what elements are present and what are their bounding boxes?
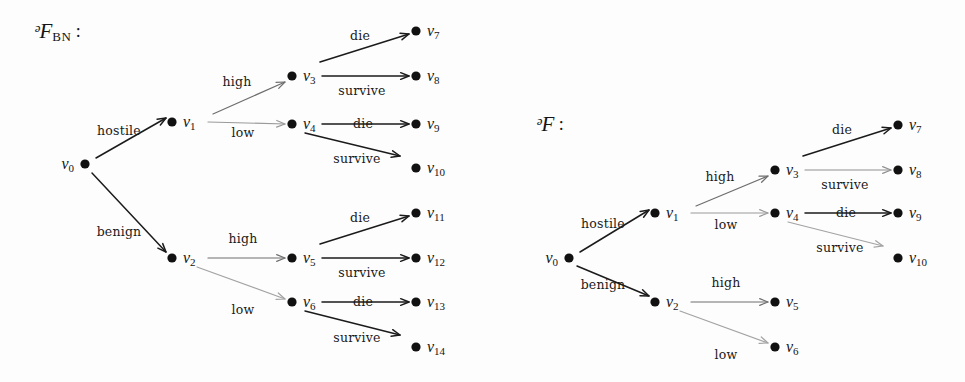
node-dot[interactable] (287, 297, 296, 306)
node-dot[interactable] (287, 253, 296, 262)
edge-label: low (232, 302, 255, 317)
node-panel-t-v8[interactable]: v8 (893, 161, 922, 180)
edge-label: die (836, 205, 856, 220)
node-dot[interactable] (411, 26, 420, 35)
node-dot[interactable] (411, 119, 420, 128)
edge-label: survive (338, 265, 385, 280)
node-label: v6 (303, 293, 316, 312)
node-panel-bn-v8[interactable]: v8 (411, 67, 440, 86)
edge-panel-bn-e-v3-v8: survive (322, 73, 409, 98)
decision-tree-figure: ᵊFBN :hostilebenignhighlowhighlowdiesurv… (0, 0, 965, 382)
edge-panel-bn-e-v0-v1: hostile (96, 118, 166, 158)
node-dot[interactable] (167, 253, 176, 262)
node-panel-t-v10[interactable]: v10 (893, 249, 927, 268)
node-panel-bn-v2[interactable]: v2 (167, 249, 195, 268)
edge-label: survive (821, 177, 868, 192)
edge-panel-bn-e-v6-v13: die (322, 294, 409, 309)
edge-label: die (353, 116, 373, 131)
node-panel-bn-v1[interactable]: v1 (167, 113, 195, 132)
node-panel-t-v2[interactable]: v2 (650, 293, 678, 312)
edge-panel-t-e-v1-v4: low (691, 210, 768, 232)
panel-bn-title: ᵊFBN : (34, 19, 81, 44)
node-panel-bn-v10[interactable]: v10 (411, 159, 445, 178)
node-dot[interactable] (770, 297, 779, 306)
node-panel-bn-v7[interactable]: v7 (411, 22, 440, 41)
node-panel-t-v1[interactable]: v1 (650, 204, 678, 223)
node-label: v3 (786, 161, 799, 180)
node-panel-t-v4[interactable]: v4 (770, 204, 799, 223)
edge-label: survive (816, 240, 863, 255)
node-dot[interactable] (564, 253, 573, 262)
node-panel-bn-v0[interactable]: v0 (61, 155, 89, 174)
edge-label: high (229, 231, 258, 246)
edge-label: die (353, 294, 373, 309)
edge-panel-t-e-v1-v3: high (696, 169, 768, 207)
node-dot[interactable] (411, 71, 420, 80)
edge-label: high (706, 169, 735, 184)
edge-panel-t-e-v4-v10: survive (788, 222, 883, 255)
panel-t: ᵊF :hostilebenignhighlowhighlowdiesurviv… (536, 112, 928, 362)
node-label: v4 (303, 115, 316, 134)
node-dot[interactable] (411, 208, 420, 217)
edge-panel-bn-e-v4-v10: survive (305, 133, 400, 166)
node-panel-bn-v11[interactable]: v11 (411, 204, 444, 223)
node-panel-bn-v4[interactable]: v4 (287, 115, 316, 134)
edge-panel-bn-e-v1-v4: low (208, 120, 285, 139)
node-label: v13 (427, 293, 446, 312)
panel-bn: ᵊFBN :hostilebenignhighlowhighlowdiesurv… (34, 19, 446, 357)
edge-line (92, 173, 166, 252)
node-panel-t-v0[interactable]: v0 (545, 249, 573, 268)
node-dot[interactable] (770, 342, 779, 351)
node-dot[interactable] (893, 208, 902, 217)
node-dot[interactable] (893, 165, 902, 174)
edge-panel-bn-e-v0-v2: benign (92, 173, 166, 252)
node-panel-t-v5[interactable]: v5 (770, 293, 799, 312)
node-panel-bn-v13[interactable]: v13 (411, 293, 445, 312)
node-dot[interactable] (770, 165, 779, 174)
edge-label: survive (338, 83, 385, 98)
edge-panel-bn-e-v6-v14: survive (305, 311, 400, 345)
edge-label: low (715, 347, 738, 362)
node-label: v1 (666, 204, 679, 223)
node-dot[interactable] (411, 163, 420, 172)
node-panel-t-v9[interactable]: v9 (893, 204, 922, 223)
node-dot[interactable] (411, 297, 420, 306)
node-dot[interactable] (650, 297, 659, 306)
node-label: v11 (427, 204, 445, 223)
node-label: v8 (427, 67, 440, 86)
node-dot[interactable] (650, 208, 659, 217)
node-panel-bn-v3[interactable]: v3 (287, 67, 316, 86)
node-dot[interactable] (80, 159, 89, 168)
node-panel-bn-v12[interactable]: v12 (411, 249, 445, 268)
node-panel-t-v7[interactable]: v7 (893, 116, 922, 135)
node-label: v3 (303, 67, 316, 86)
node-panel-bn-v6[interactable]: v6 (287, 293, 316, 312)
node-dot[interactable] (287, 71, 296, 80)
edge-panel-bn-e-v2-v5: high (208, 231, 285, 262)
edge-label: low (715, 217, 738, 232)
node-dot[interactable] (893, 253, 902, 262)
edge-panel-bn-e-v2-v6: low (197, 267, 285, 317)
node-label: v2 (183, 249, 196, 268)
node-label: v10 (909, 249, 928, 268)
node-label: v0 (61, 155, 74, 174)
edge-panel-t-e-v0-v1: hostile (580, 210, 649, 252)
node-label: v9 (909, 204, 922, 223)
edge-label: hostile (581, 216, 625, 231)
node-label: v9 (427, 115, 440, 134)
node-dot[interactable] (770, 208, 779, 217)
node-dot[interactable] (411, 342, 420, 351)
arrowhead-icon (640, 210, 649, 217)
node-panel-bn-v9[interactable]: v9 (411, 115, 440, 134)
node-panel-t-v6[interactable]: v6 (770, 338, 799, 357)
node-panel-bn-v5[interactable]: v5 (287, 249, 316, 268)
node-dot[interactable] (411, 253, 420, 262)
node-dot[interactable] (167, 117, 176, 126)
node-dot[interactable] (287, 119, 296, 128)
edge-panel-t-e-v2-v6: low (680, 311, 768, 362)
edge-label: high (712, 275, 741, 290)
edge-label: die (350, 210, 370, 225)
node-panel-t-v3[interactable]: v3 (770, 161, 799, 180)
node-dot[interactable] (893, 120, 902, 129)
node-panel-bn-v14[interactable]: v14 (411, 338, 445, 357)
